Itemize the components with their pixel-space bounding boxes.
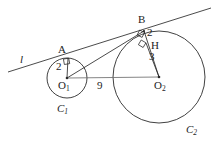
segment-o1-o2 [67, 77, 159, 78]
label-circle-c1-subscript: 1 [64, 107, 68, 116]
label-center-o1-letter: O [58, 79, 66, 91]
label-center-o1: O1 [58, 80, 70, 91]
vertex-dot-o1 [66, 77, 69, 80]
right-angle-mark-h [138, 40, 146, 48]
label-center-o1-subscript: 1 [66, 84, 70, 93]
label-point-b: B [138, 14, 145, 25]
label-circle-c2: C2 [186, 124, 197, 135]
label-circle-c2-subscript: 2 [193, 128, 197, 137]
length-label-centers: 9 [97, 80, 103, 91]
label-line-l: l [20, 54, 23, 65]
label-point-a: A [58, 44, 66, 55]
length-label-radius-small: 2 [56, 61, 62, 72]
vertex-dot-b [143, 30, 145, 32]
length-label-ho2: 3 [149, 51, 155, 62]
label-center-o2-letter: O [154, 79, 162, 91]
label-circle-c1: C1 [57, 103, 68, 114]
vertex-dot-o2 [158, 76, 161, 79]
tangent-line-l [8, 8, 211, 72]
figure-canvas [0, 0, 219, 143]
segment-o1-b [67, 31, 144, 78]
segment-o1-a [67, 58, 68, 78]
right-angle-mark-a [63, 58, 69, 64]
length-label-bh: 2 [147, 27, 153, 38]
label-center-o2-subscript: 2 [162, 84, 166, 93]
geometry-figure: l A B H O1 O2 C1 C2 2 2 3 9 [0, 0, 219, 143]
label-center-o2: O2 [154, 80, 166, 91]
